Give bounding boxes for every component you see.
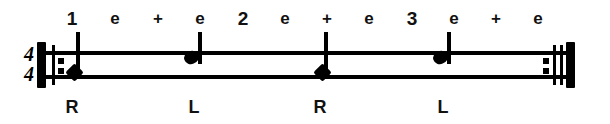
music-notation-sheet: 1e+e2e+e3e+e 4 4 RLRL bbox=[0, 0, 610, 124]
staff-line-bottom bbox=[37, 75, 575, 79]
repeat-end-thick-barline bbox=[566, 42, 575, 88]
count-beat: 2 bbox=[231, 8, 255, 30]
repeat-end-dot-upper bbox=[543, 58, 549, 64]
staff-line-top bbox=[37, 51, 575, 55]
repeat-start-thick-barline bbox=[37, 42, 46, 88]
sticking-left: L bbox=[180, 96, 208, 118]
repeat-start-dot-upper bbox=[58, 58, 64, 64]
repeat-start-thin-barline bbox=[52, 45, 55, 85]
count-subdivision: e bbox=[103, 8, 127, 30]
count-subdivision: e bbox=[442, 8, 466, 30]
sticking-right: R bbox=[306, 96, 334, 118]
time-signature-denominator: 4 bbox=[20, 64, 38, 84]
sticking-right: R bbox=[58, 96, 86, 118]
repeat-end-dot-lower bbox=[543, 68, 549, 74]
time-signature: 4 4 bbox=[20, 44, 38, 84]
sticking-left: L bbox=[429, 96, 457, 118]
count-subdivision: + bbox=[484, 8, 508, 30]
counting-row: 1e+e2e+e3e+e bbox=[0, 8, 610, 32]
count-beat: 1 bbox=[60, 8, 84, 30]
sticking-row: RLRL bbox=[0, 96, 610, 120]
count-beat: 3 bbox=[400, 8, 424, 30]
count-subdivision: e bbox=[526, 8, 550, 30]
repeat-end-thin-barline-2 bbox=[560, 45, 563, 85]
count-subdivision: e bbox=[188, 8, 212, 30]
count-subdivision: + bbox=[146, 8, 170, 30]
count-subdivision: e bbox=[273, 8, 297, 30]
repeat-start-dot-lower bbox=[58, 68, 64, 74]
count-subdivision: + bbox=[315, 8, 339, 30]
time-signature-numerator: 4 bbox=[20, 44, 38, 64]
repeat-end-thin-barline-1 bbox=[553, 45, 556, 85]
count-subdivision: e bbox=[357, 8, 381, 30]
